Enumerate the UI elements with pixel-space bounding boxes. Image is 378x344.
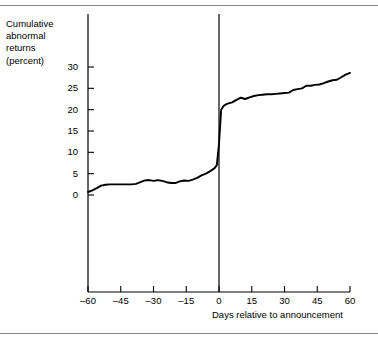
x-tick-label: 60 — [335, 296, 365, 306]
y-tick-label: 0 — [56, 190, 78, 200]
figure-container: Cumulative abnormal returns (percent) 05… — [0, 0, 378, 344]
x-tick-label: –15 — [171, 296, 201, 306]
data-series-group — [88, 14, 350, 292]
x-tick-label: 45 — [302, 296, 332, 306]
x-tick-label: –45 — [106, 296, 136, 306]
x-tick-label: –30 — [139, 296, 169, 306]
x-tick-label: 0 — [204, 296, 234, 306]
y-tick-label: 30 — [56, 62, 78, 72]
y-tick-label: 20 — [56, 105, 78, 115]
y-tick-label: 10 — [56, 147, 78, 157]
x-tick-label: –60 — [73, 296, 103, 306]
y-tick-label: 5 — [56, 169, 78, 179]
y-tick-label: 25 — [56, 83, 78, 93]
x-axis-label: Days relative to announcement — [212, 309, 343, 320]
y-tick-label: 15 — [56, 126, 78, 136]
x-tick-label: 15 — [237, 296, 267, 306]
x-tick-label: 30 — [270, 296, 300, 306]
